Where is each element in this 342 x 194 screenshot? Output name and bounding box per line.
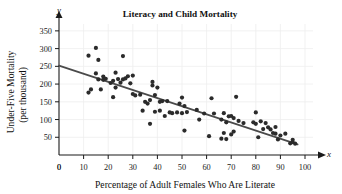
y-axis-label-line1: Under-Five Mortality bbox=[5, 50, 16, 133]
data-point bbox=[94, 46, 98, 50]
x-tick-label: 70 bbox=[227, 163, 235, 172]
data-point bbox=[170, 111, 174, 115]
data-point bbox=[209, 96, 213, 100]
data-point bbox=[241, 121, 245, 125]
data-point bbox=[224, 120, 228, 124]
x-tick-label: 30 bbox=[129, 163, 137, 172]
x-tick-label: 50 bbox=[178, 163, 186, 172]
data-point bbox=[148, 122, 152, 126]
data-point bbox=[261, 127, 265, 131]
data-point bbox=[175, 110, 179, 114]
data-point bbox=[219, 117, 223, 121]
x-tick-label: 60 bbox=[202, 163, 210, 172]
data-point bbox=[268, 127, 272, 131]
data-point bbox=[150, 83, 154, 87]
y-tick-label: 150 bbox=[40, 98, 52, 107]
x-axis-arrow-icon bbox=[318, 152, 326, 159]
x-axis-label: Percentage of Adult Females Who Are Lite… bbox=[95, 179, 275, 190]
x-tick-label: 80 bbox=[252, 163, 260, 172]
data-point bbox=[180, 95, 184, 99]
data-point bbox=[256, 135, 260, 139]
y-tick-label: 250 bbox=[40, 62, 52, 71]
x-axis-letter: x bbox=[326, 149, 331, 159]
data-point bbox=[219, 137, 223, 141]
data-point bbox=[113, 86, 117, 90]
data-point bbox=[236, 119, 240, 123]
data-point bbox=[153, 93, 157, 97]
data-point bbox=[197, 117, 201, 121]
data-point bbox=[148, 98, 152, 102]
data-point bbox=[207, 134, 211, 138]
data-point bbox=[283, 132, 287, 136]
data-point bbox=[141, 109, 145, 113]
data-point bbox=[180, 111, 184, 115]
data-point bbox=[278, 133, 282, 137]
data-point bbox=[86, 54, 90, 58]
data-point bbox=[293, 142, 297, 146]
data-point bbox=[96, 58, 100, 62]
data-point bbox=[163, 114, 167, 118]
data-point bbox=[121, 54, 125, 58]
data-point bbox=[111, 95, 115, 99]
origin-label: 0 bbox=[57, 163, 61, 172]
data-point bbox=[185, 110, 189, 114]
data-point bbox=[158, 109, 162, 113]
x-tick-label: 90 bbox=[276, 163, 284, 172]
data-point bbox=[131, 73, 135, 77]
data-point bbox=[222, 131, 226, 135]
x-tick-label: 10 bbox=[79, 163, 87, 172]
scatter-plot: 0102030405060708090100501001502002503003… bbox=[0, 0, 342, 194]
data-points bbox=[86, 46, 297, 146]
data-point bbox=[104, 77, 108, 81]
data-point bbox=[254, 110, 258, 114]
x-tick-label: 20 bbox=[104, 163, 112, 172]
data-point bbox=[232, 129, 236, 133]
axes bbox=[56, 11, 327, 159]
data-point bbox=[195, 108, 199, 112]
data-point bbox=[202, 111, 206, 115]
data-point bbox=[291, 138, 295, 142]
x-tick-label: 40 bbox=[153, 163, 161, 172]
tick-marks bbox=[55, 31, 305, 159]
data-point bbox=[133, 93, 137, 97]
data-point bbox=[160, 99, 164, 103]
data-point bbox=[153, 110, 157, 114]
data-point bbox=[128, 81, 132, 85]
data-point bbox=[89, 87, 93, 91]
data-point bbox=[111, 79, 115, 83]
y-axis-label-line2: (per thousand) bbox=[17, 67, 29, 123]
y-tick-label: 50 bbox=[44, 133, 52, 142]
data-point bbox=[234, 95, 238, 99]
data-point bbox=[177, 101, 181, 105]
chart-figure: 0102030405060708090100501001502002503003… bbox=[0, 0, 342, 194]
y-tick-label: 300 bbox=[40, 45, 52, 54]
data-point bbox=[116, 77, 120, 81]
y-tick-label: 100 bbox=[40, 116, 52, 125]
data-point bbox=[99, 87, 103, 91]
data-point bbox=[232, 116, 236, 120]
data-point bbox=[182, 104, 186, 108]
data-point bbox=[222, 111, 226, 115]
data-point bbox=[165, 99, 169, 103]
data-point bbox=[155, 86, 159, 90]
y-tick-label: 350 bbox=[40, 27, 52, 36]
data-point bbox=[94, 71, 98, 75]
data-point bbox=[138, 93, 142, 97]
data-point bbox=[259, 119, 263, 123]
data-point bbox=[264, 121, 268, 125]
data-point bbox=[113, 71, 117, 75]
y-tick-label: 200 bbox=[40, 80, 52, 89]
data-point bbox=[254, 122, 258, 126]
data-point bbox=[273, 132, 277, 136]
data-point bbox=[276, 137, 280, 141]
data-point bbox=[224, 137, 228, 141]
data-point bbox=[273, 125, 277, 129]
data-point bbox=[212, 111, 216, 115]
data-point bbox=[145, 101, 149, 105]
data-point bbox=[126, 74, 130, 78]
chart-title: Literacy and Child Mortality bbox=[123, 9, 238, 19]
y-axis-letter: y bbox=[56, 5, 61, 15]
x-tick-label: 100 bbox=[299, 163, 311, 172]
data-point bbox=[182, 128, 186, 132]
data-point bbox=[96, 77, 100, 81]
